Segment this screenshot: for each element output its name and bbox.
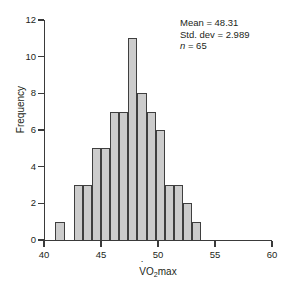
histogram-bar <box>83 185 92 241</box>
histogram-bar <box>165 185 174 241</box>
x-tick-label-55: 55 <box>200 250 230 260</box>
x-tick-45 <box>100 241 101 247</box>
histogram-bar <box>101 148 110 241</box>
sample-size-label: n = 65 <box>180 40 249 52</box>
x-tick-label-60: 60 <box>257 250 282 260</box>
x-tick-label-40: 40 <box>29 250 59 260</box>
mean-label: Mean = 48.31 <box>180 17 249 29</box>
histogram-bar <box>55 222 64 241</box>
histogram-bar <box>174 185 183 241</box>
x-tick-60 <box>271 241 272 247</box>
x-tick-40 <box>43 241 44 247</box>
max-text: max <box>158 266 177 277</box>
stddev-label: Std. dev = 2.989 <box>180 29 249 41</box>
histogram-bar <box>119 112 128 241</box>
histogram-bar <box>147 112 156 241</box>
x-axis-title: VO2max <box>44 266 272 277</box>
x-tick-label-50: 50 <box>143 250 173 260</box>
histogram-figure: 024681012 Frequency 4045505560 VO2max Me… <box>0 0 282 285</box>
histogram-bar <box>128 38 137 241</box>
histogram-bar <box>156 130 165 241</box>
histogram-bar <box>92 148 101 241</box>
histogram-bar <box>192 222 201 241</box>
x-tick-55 <box>214 241 215 247</box>
stats-annotation: Mean = 48.31 Std. dev = 2.989 n = 65 <box>180 17 249 52</box>
histogram-bar <box>183 203 192 241</box>
histogram-bar <box>137 93 146 241</box>
o-symbol: O <box>146 266 154 277</box>
subscript-two: 2 <box>154 270 158 279</box>
x-tick-50 <box>157 241 158 247</box>
n-value: = 65 <box>185 40 206 51</box>
histogram-bar <box>74 185 83 241</box>
histogram-bar <box>110 112 119 241</box>
v-dot-symbol: V <box>139 266 146 277</box>
x-tick-label-45: 45 <box>86 250 116 260</box>
